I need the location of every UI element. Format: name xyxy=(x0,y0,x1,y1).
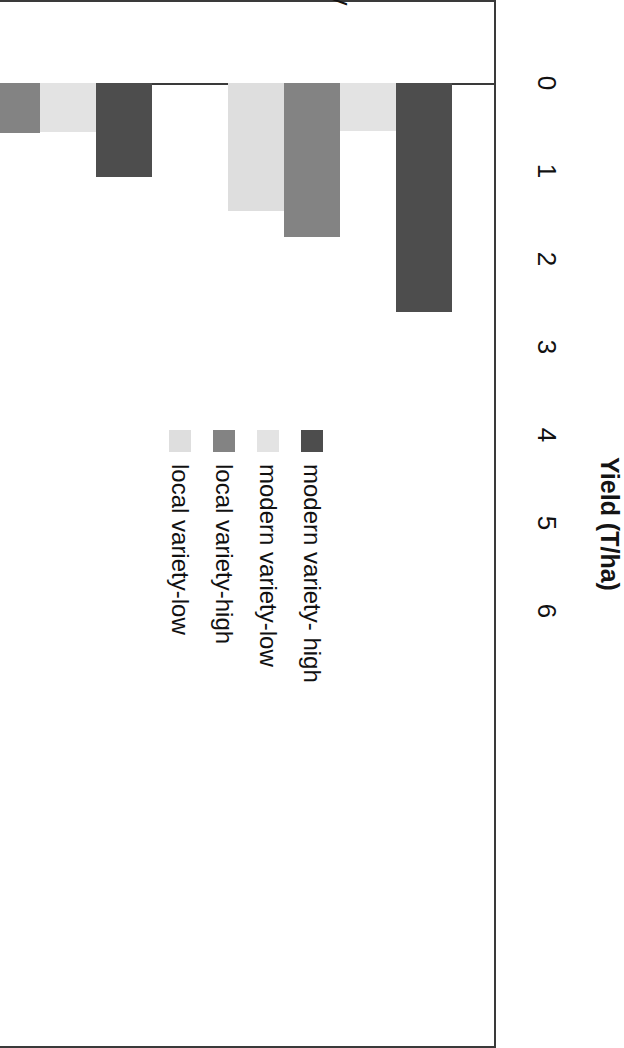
value-axis-tick-3: 3 xyxy=(531,327,562,367)
bar-chart: Yield (T/ha) 0123456 BarleyRiceWheat mod… xyxy=(0,0,624,1048)
legend-swatch-icon xyxy=(301,430,323,452)
legend-item: local variety-low xyxy=(168,430,192,635)
category-label-barley: Barley xyxy=(327,0,356,70)
bar xyxy=(284,83,340,237)
bar xyxy=(40,83,96,132)
rotated-figure-container: Yield (T/ha) 0123456 BarleyRiceWheat mod… xyxy=(0,0,624,1048)
legend-item: local variety-high xyxy=(212,430,236,644)
bar xyxy=(96,83,152,177)
value-axis-tick-4: 4 xyxy=(531,415,562,455)
plot-area xyxy=(0,0,496,1048)
legend-swatch-icon xyxy=(213,430,235,452)
bar xyxy=(340,83,396,131)
value-axis-tick-0: 0 xyxy=(531,63,562,103)
bar xyxy=(228,83,284,211)
value-axis-tick-6: 6 xyxy=(531,591,562,631)
bar xyxy=(0,83,40,133)
legend-label: modern variety-low xyxy=(256,464,280,667)
category-label-rice: Rice xyxy=(27,0,56,70)
legend-label: modern variety- high xyxy=(300,464,324,683)
value-axis-tick-1: 1 xyxy=(531,151,562,191)
legend-swatch-icon xyxy=(257,430,279,452)
value-axis-tick-5: 5 xyxy=(531,503,562,543)
legend-label: local variety-low xyxy=(168,464,192,635)
value-axis-tick-2: 2 xyxy=(531,239,562,279)
legend-swatch-icon xyxy=(169,430,191,452)
legend-item: modern variety- high xyxy=(300,430,324,683)
value-axis: 0123456 xyxy=(504,0,624,1048)
bar xyxy=(396,83,452,312)
legend-item: modern variety-low xyxy=(256,430,280,667)
legend-label: local variety-high xyxy=(212,464,236,644)
